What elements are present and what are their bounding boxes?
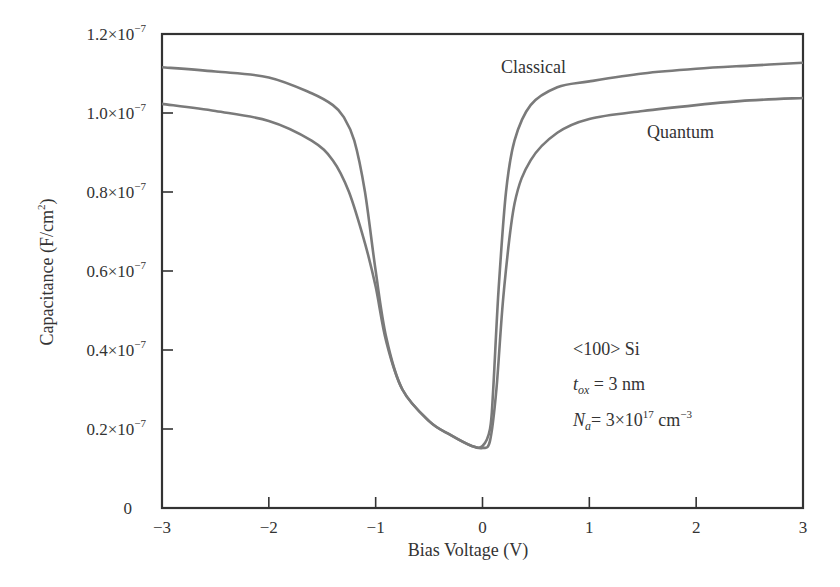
x-tick-label: −3 [153,518,171,537]
y-tick-label: 0 [124,499,133,518]
y-axis-label-main: Capacitance (F/cm [37,210,58,345]
x-tick-label: −2 [260,518,278,537]
series-label-quantum: Quantum [647,122,714,142]
annotation-material: <100> Si [573,339,640,359]
y-axis-label-tail: ) [37,199,58,205]
annotation-doping: Na= 3×1017 cm−3 [572,408,693,433]
na-value: = 3×10 [591,410,643,430]
na-var: N [572,410,586,430]
y-axis-label: Capacitance (F/cm2) [35,199,58,346]
na-exponent: 17 [643,408,655,420]
y-tick-label: 0.4×10−7 [86,338,146,360]
x-axis-ticks: −3−2−10123 [153,497,807,537]
na-unit-exponent: −3 [680,408,692,420]
y-tick-label: 1.2×10−7 [86,22,146,44]
y-tick-label: 0.2×10−7 [86,417,146,439]
tox-value: = 3 nm [589,374,645,394]
x-tick-label: −1 [367,518,385,537]
x-tick-label: 2 [692,518,701,537]
x-tick-label: 3 [799,518,808,537]
y-tick-label: 1.0×10−7 [86,101,146,123]
series-label-classical: Classical [501,57,566,77]
series-line-quantum [162,98,803,448]
annotation-block: <100> Si tox = 3 nm Na= 3×1017 cm−3 [572,339,693,433]
x-axis-label: Bias Voltage (V) [408,540,528,561]
tox-subscript: ox [578,383,590,397]
data-series [162,63,803,449]
capacitance-voltage-chart: −3−2−10123 00.2×10−70.4×10−70.6×10−70.8×… [0,0,840,587]
na-unit: cm [654,410,681,430]
x-tick-label: 1 [585,518,594,537]
series-line-classical [162,63,803,448]
x-tick-label: 0 [478,518,487,537]
y-axis-ticks: 00.2×10−70.4×10−70.6×10−70.8×10−71.0×10−… [86,22,173,518]
y-tick-label: 0.8×10−7 [86,180,146,202]
annotation-oxide-thickness: tox = 3 nm [573,374,645,397]
y-tick-label: 0.6×10−7 [86,259,146,281]
